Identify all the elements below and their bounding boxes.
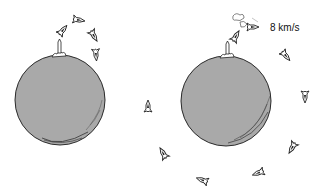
left-planet (15, 39, 105, 145)
rocket-icon (56, 23, 70, 37)
rocket-icon (195, 174, 209, 186)
rocket-icon (251, 167, 265, 179)
right-planet (181, 14, 271, 146)
rocket-icon (286, 141, 299, 155)
rocket-icon (230, 29, 243, 43)
rocket-icon (72, 15, 85, 25)
rocket-icon (144, 100, 152, 112)
rocket-icon (279, 49, 293, 63)
launch-pad-icon (52, 39, 66, 57)
speed-label: 8 km/s (270, 22, 299, 33)
rocket-icon (301, 91, 309, 103)
rocket-icon (88, 29, 101, 43)
rocket-icon (91, 49, 100, 62)
rocket-icon (247, 23, 259, 31)
rocket-icon (157, 146, 170, 160)
launch-pad-icon (220, 41, 234, 58)
